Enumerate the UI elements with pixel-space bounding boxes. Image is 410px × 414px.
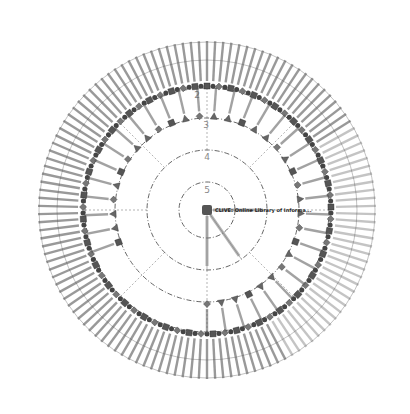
- circle-icon: [307, 278, 312, 283]
- inner-node[interactable]: [210, 87, 217, 119]
- outer-node[interactable]: [210, 41, 216, 89]
- inner-node[interactable]: [245, 290, 263, 321]
- outer-node[interactable]: [100, 77, 133, 117]
- diamond-icon: [298, 127, 305, 134]
- spoke[interactable]: [206, 210, 209, 270]
- outer-node[interactable]: [205, 332, 210, 380]
- outer-node[interactable]: [289, 88, 326, 125]
- node-label-placeholder: [280, 127, 299, 145]
- outer-node[interactable]: [44, 164, 90, 179]
- inner-node[interactable]: [281, 142, 310, 163]
- inner-node[interactable]: [297, 195, 329, 203]
- circle-icon: [81, 222, 86, 227]
- inner-node[interactable]: [231, 296, 245, 328]
- node-label-placeholder: [181, 337, 189, 377]
- inner-node[interactable]: [238, 95, 254, 126]
- square-icon: [117, 168, 125, 176]
- square-icon: [328, 204, 334, 210]
- outer-node[interactable]: [38, 204, 87, 211]
- inner-node[interactable]: [204, 301, 211, 334]
- inner-node[interactable]: [268, 273, 294, 299]
- inner-node[interactable]: [294, 176, 326, 188]
- circle-icon: [127, 304, 132, 309]
- outer-node[interactable]: [328, 222, 375, 231]
- inner-node[interactable]: [160, 96, 176, 127]
- inner-node[interactable]: [292, 238, 324, 253]
- inner-node[interactable]: [86, 224, 118, 235]
- outer-node[interactable]: [189, 331, 197, 378]
- node-label-placeholder: [49, 149, 87, 165]
- inner-node[interactable]: [94, 159, 125, 176]
- diamond-icon: [131, 307, 138, 314]
- circle-icon: [318, 257, 323, 262]
- inner-node[interactable]: [88, 177, 120, 190]
- outer-node[interactable]: [215, 42, 224, 90]
- outer-node[interactable]: [39, 222, 86, 231]
- inner-node[interactable]: [85, 195, 117, 203]
- circle-icon: [81, 199, 86, 204]
- node-label-placeholder: [52, 141, 90, 159]
- inner-node[interactable]: [285, 250, 315, 269]
- diamond-icon: [98, 272, 105, 279]
- inner-node[interactable]: [278, 263, 305, 285]
- outer-node[interactable]: [94, 299, 129, 338]
- outer-node[interactable]: [327, 188, 375, 198]
- outer-node[interactable]: [298, 100, 337, 133]
- outer-node[interactable]: [294, 290, 332, 326]
- outer-node[interactable]: [328, 204, 376, 210]
- outer-node[interactable]: [72, 281, 113, 313]
- inner-node[interactable]: [84, 210, 116, 217]
- circle-icon: [187, 85, 192, 90]
- node-label-placeholder: [263, 290, 279, 311]
- inner-node[interactable]: [257, 282, 279, 311]
- outer-node[interactable]: [88, 296, 123, 332]
- outer-node[interactable]: [210, 331, 217, 379]
- outer-node[interactable]: [38, 197, 85, 204]
- center-node[interactable]: CLIVE: Online Library of Informa...: [202, 205, 312, 215]
- inner-node[interactable]: [250, 104, 270, 134]
- diamond-icon: [136, 103, 143, 110]
- square-icon: [162, 323, 170, 331]
- outer-node[interactable]: [165, 46, 179, 92]
- node-label-placeholder: [336, 212, 376, 215]
- inner-node[interactable]: [177, 90, 189, 122]
- outer-node[interactable]: [324, 164, 370, 179]
- outer-node[interactable]: [82, 291, 119, 326]
- outer-node[interactable]: [327, 215, 375, 223]
- inner-node[interactable]: [224, 90, 236, 122]
- outer-node[interactable]: [198, 41, 204, 89]
- outer-node[interactable]: [39, 188, 87, 198]
- outer-node[interactable]: [204, 41, 210, 89]
- outer-node[interactable]: [328, 210, 376, 215]
- outer-node[interactable]: [77, 100, 116, 134]
- diamond-icon: [266, 313, 273, 320]
- node-label-placeholder: [224, 337, 232, 377]
- outer-node[interactable]: [216, 331, 224, 378]
- inner-node[interactable]: [217, 299, 227, 331]
- inner-node[interactable]: [128, 115, 152, 143]
- circle-icon: [326, 234, 331, 239]
- diamond-icon: [274, 144, 281, 151]
- outer-node[interactable]: [38, 216, 86, 224]
- inner-node[interactable]: [296, 224, 328, 234]
- inner-node[interactable]: [262, 114, 286, 142]
- inner-node[interactable]: [103, 142, 132, 162]
- circle-icon: [287, 115, 292, 120]
- inner-node[interactable]: [143, 104, 162, 133]
- outer-node[interactable]: [328, 197, 375, 204]
- outer-node[interactable]: [88, 88, 124, 125]
- inner-node[interactable]: [114, 128, 141, 153]
- outer-node[interactable]: [276, 306, 308, 347]
- outer-node[interactable]: [291, 296, 326, 332]
- outer-node[interactable]: [38, 210, 86, 215]
- outer-node[interactable]: [198, 330, 205, 379]
- outer-node[interactable]: [281, 77, 314, 116]
- inner-node[interactable]: [289, 158, 320, 175]
- outer-node[interactable]: [42, 172, 90, 186]
- spoke[interactable]: [207, 210, 241, 259]
- outer-node[interactable]: [286, 299, 320, 337]
- outer-node[interactable]: [234, 46, 248, 92]
- inner-node[interactable]: [91, 238, 123, 253]
- circle-icon: [222, 85, 227, 90]
- outer-node[interactable]: [189, 42, 198, 90]
